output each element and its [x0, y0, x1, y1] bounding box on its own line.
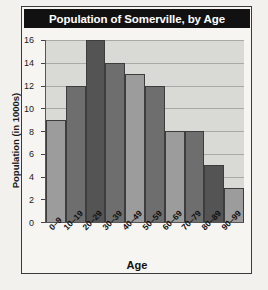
x-axis-tick-label-cell: 90–99 — [223, 224, 243, 258]
x-axis-tick-label-cell: 0–9 — [45, 224, 65, 258]
x-axis-tick-labels: 0–910–1920–2930–3940–4950–5960–6970–7980… — [45, 224, 243, 258]
bar — [86, 40, 106, 222]
bar — [66, 86, 86, 223]
bar — [165, 131, 185, 222]
bar — [145, 86, 165, 223]
x-axis-tick-label-cell: 70–79 — [184, 224, 204, 258]
y-axis-title-text: Population (in 1000s) — [11, 92, 22, 188]
x-axis-tick-label-cell: 60–69 — [164, 224, 184, 258]
chart-title-banner: Population of Somerville, by Age — [24, 9, 250, 28]
x-axis-tick-label-cell: 80–89 — [203, 224, 223, 258]
chart-figure: Population of Somerville, by Age Populat… — [0, 0, 268, 290]
x-axis-tick-label-cell: 50–59 — [144, 224, 164, 258]
plot-area: 0246810121416 — [45, 40, 244, 223]
x-axis-tick-label-cell: 40–49 — [124, 224, 144, 258]
bar — [46, 120, 66, 222]
y-axis-title: Population (in 1000s) — [8, 60, 24, 220]
chart-title: Population of Somerville, by Age — [49, 13, 225, 25]
bar-series — [46, 40, 244, 222]
bar — [105, 63, 125, 222]
x-axis-title: Age — [24, 259, 250, 271]
x-axis-tick-label-cell: 30–39 — [104, 224, 124, 258]
bar — [125, 74, 145, 222]
x-axis-tick-label-cell: 20–29 — [85, 224, 105, 258]
x-axis-tick-label-cell: 10–19 — [65, 224, 85, 258]
